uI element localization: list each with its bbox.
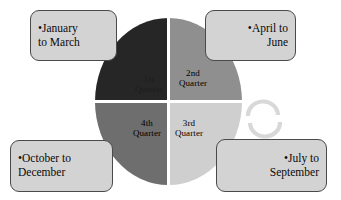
cycle-arrows-icon	[242, 96, 286, 142]
callout-july-to-september-line1: •July to	[224, 152, 319, 166]
pie-label-2nd-quarter: 2nd Quarter	[161, 69, 225, 88]
callout-october-to-december-text: •October to December	[11, 152, 112, 179]
callout-july-to-september-text: •July to September	[217, 152, 326, 179]
pie-label-4th-quarter: 4th Quarter	[115, 119, 179, 138]
callout-april-to-june-text: •April to June	[206, 22, 295, 49]
callout-january-to-march-line1-text: January	[42, 22, 78, 34]
callout-october-to-december-line2: December	[18, 166, 105, 180]
pie-label-4th-quarter-line2: Quarter	[115, 129, 179, 139]
pie-label-2nd-quarter-line2: Quarter	[161, 79, 225, 89]
callout-january-to-march[interactable]: •January to March	[30, 10, 117, 61]
callout-october-to-december-line1: •October to	[18, 152, 105, 166]
callout-july-to-september[interactable]: •July to September	[216, 139, 327, 192]
callout-january-to-march-line2: to March	[38, 36, 109, 50]
callout-april-to-june-line2: June	[213, 36, 288, 50]
callout-october-to-december[interactable]: •October to December	[10, 140, 113, 192]
diagram-canvas: 1st Quarter 2nd Quarter 3rd Quarter 4th …	[0, 0, 341, 200]
callout-april-to-june-line1: •April to	[213, 22, 288, 36]
callout-january-to-march-line1: •January	[38, 22, 109, 36]
callout-april-to-june[interactable]: •April to June	[205, 10, 296, 61]
pie-divider-horizontal	[93, 100, 244, 103]
callout-april-to-june-line1-text: April to	[252, 22, 288, 34]
callout-july-to-september-line1-text: July to	[288, 152, 319, 164]
callout-october-to-december-line1-text: October to	[22, 152, 71, 164]
callout-january-to-march-text: •January to March	[31, 22, 116, 49]
callout-july-to-september-line2: September	[224, 166, 319, 180]
